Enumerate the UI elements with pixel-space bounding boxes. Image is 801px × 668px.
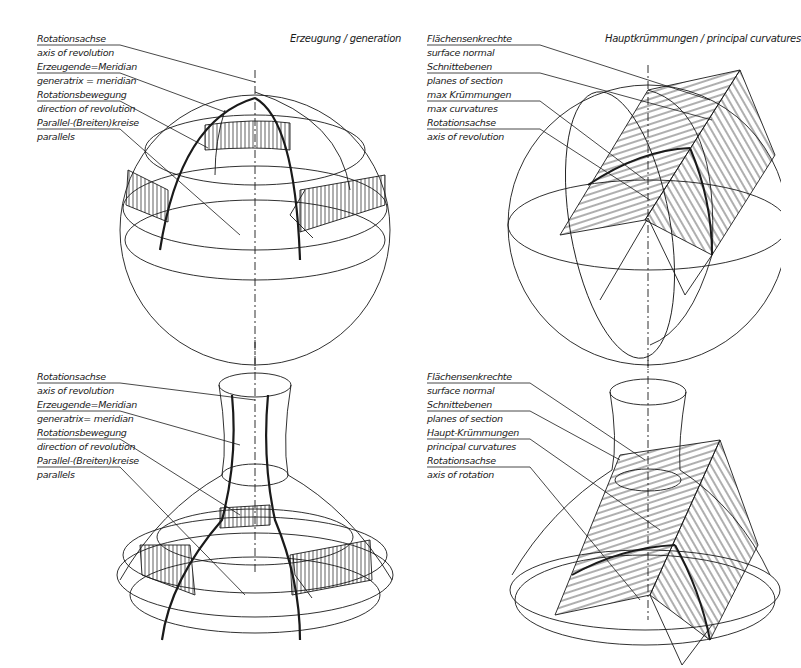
carafe-curvatures-figure bbox=[510, 360, 780, 665]
sphere-generation-figure bbox=[120, 70, 390, 370]
sphere-curvatures-figure bbox=[508, 65, 781, 370]
carafe-generation-figure bbox=[117, 340, 393, 640]
